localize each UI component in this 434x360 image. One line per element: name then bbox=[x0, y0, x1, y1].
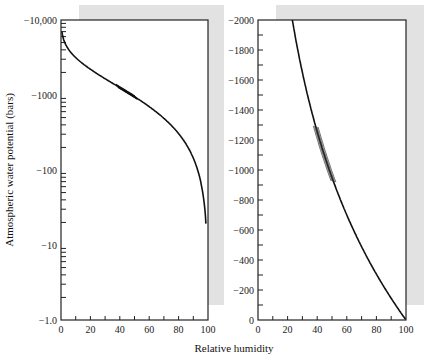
x-tick-label: 80 bbox=[174, 324, 184, 335]
x-tick-label: 40 bbox=[312, 324, 322, 335]
x-tick-label: 60 bbox=[342, 324, 352, 335]
y-tick-label: −600 bbox=[233, 225, 254, 236]
x-axis-label: Relative humidity bbox=[194, 342, 274, 354]
right-plot-area bbox=[258, 20, 406, 320]
y-tick-label: −1000 bbox=[228, 165, 254, 176]
x-tick-label: 100 bbox=[201, 324, 216, 335]
x-tick-label: 60 bbox=[144, 324, 154, 335]
x-tick-label: 100 bbox=[399, 324, 414, 335]
x-tick-label: 20 bbox=[283, 324, 293, 335]
y-tick-label: 0 bbox=[249, 315, 254, 326]
y-tick-label: −1.0 bbox=[39, 315, 57, 326]
y-tick-label: −10 bbox=[41, 240, 57, 251]
y-tick-label: −10,000 bbox=[24, 15, 57, 26]
left-plot-area bbox=[61, 20, 208, 320]
y-tick-label: −2000 bbox=[228, 15, 254, 26]
y-tick-label: −1400 bbox=[228, 105, 254, 116]
x-tick-label: 80 bbox=[371, 324, 381, 335]
y-tick-label: −100 bbox=[36, 165, 57, 176]
y-tick-label: −400 bbox=[233, 255, 254, 266]
chart-canvas: −10,000−1000−100−10−1.0 −2000−1800−1600−… bbox=[0, 0, 434, 360]
x-tick-label: 0 bbox=[59, 324, 64, 335]
y-tick-label: −1000 bbox=[31, 90, 57, 101]
left-y-axis: −10,000−1000−100−10−1.0 bbox=[24, 15, 66, 326]
y-axis-label: Atmospheric water potential (bars) bbox=[3, 93, 16, 247]
y-tick-label: −1200 bbox=[228, 135, 254, 146]
y-tick-label: −200 bbox=[233, 285, 254, 296]
x-tick-label: 20 bbox=[85, 324, 95, 335]
x-tick-label: 40 bbox=[115, 324, 125, 335]
y-tick-label: −1600 bbox=[228, 75, 254, 86]
y-tick-label: −800 bbox=[233, 195, 254, 206]
y-tick-label: −1800 bbox=[228, 45, 254, 56]
x-tick-label: 0 bbox=[256, 324, 261, 335]
